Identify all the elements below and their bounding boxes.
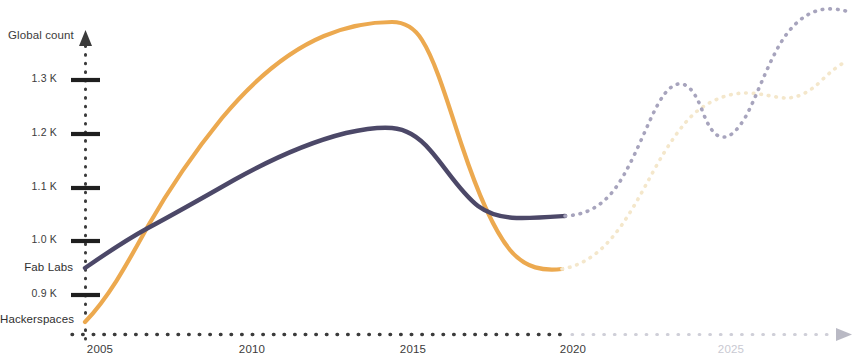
x-axis-arrow-icon [836,328,852,341]
series-line-hackerspaces [85,22,562,322]
x-tick-label-2015: 2015 [385,343,441,355]
series-label-fab-labs: Fab Labs [0,261,73,273]
series-projection-fab-labs [565,9,846,216]
series-projection-hackerspaces [562,62,845,269]
y-axis-arrow-icon [79,30,92,46]
y-tick-label-1000: 1.0 K [10,233,57,245]
y-tick-label-1100: 1.1 K [10,180,57,192]
chart-canvas [0,0,855,361]
projection-line-chart: Global count 1.3 K 1.2 K 1.1 K 1.0 K 0.9… [0,0,855,361]
x-tick-label-2025: 2025 [703,343,759,355]
x-tick-label-2005: 2005 [72,343,128,355]
x-tick-label-2010: 2010 [224,343,280,355]
series-line-fab-labs [85,128,565,268]
series-label-hackerspaces: Hackerspaces [0,313,73,325]
x-axis [72,328,852,341]
y-tick-label-900: 0.9 K [10,287,57,299]
x-tick-label-2020: 2020 [545,343,601,355]
y-axis-title: Global count [8,29,74,41]
y-tick-label-1300: 1.3 K [10,72,57,84]
y-tick-label-1200: 1.2 K [10,126,57,138]
